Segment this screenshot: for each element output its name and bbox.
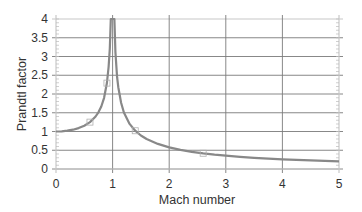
y-tick-label: 2.5	[31, 68, 48, 82]
x-axis-title: Mach number	[159, 193, 235, 207]
x-tick-label: 2	[166, 177, 173, 191]
x-tick-label: 0	[53, 177, 60, 191]
y-tick-label: 0.5	[31, 143, 48, 157]
x-tick-label: 1	[109, 177, 116, 191]
y-tick-labels: 00.511.522.533.54	[31, 12, 48, 176]
y-tick-label: 3	[41, 50, 48, 64]
x-tick-label: 3	[222, 177, 229, 191]
y-tick-label: 1	[41, 125, 48, 139]
y-tick-label: 4	[41, 12, 48, 26]
y-axis-title: Prandtl factor	[15, 57, 29, 131]
y-tick-label: 1.5	[31, 106, 48, 120]
y-tick-label: 3.5	[31, 31, 48, 45]
x-tick-label: 5	[336, 177, 343, 191]
prandtl-factor-chart: 00.511.522.533.54 012345 Mach number Pra…	[0, 0, 362, 212]
x-tick-labels: 012345	[53, 177, 343, 191]
x-tick-label: 4	[279, 177, 286, 191]
y-tick-label: 2	[41, 87, 48, 101]
y-tick-label: 0	[41, 162, 48, 176]
grid-lines	[52, 15, 343, 173]
prandtl-curve	[56, 19, 339, 161]
